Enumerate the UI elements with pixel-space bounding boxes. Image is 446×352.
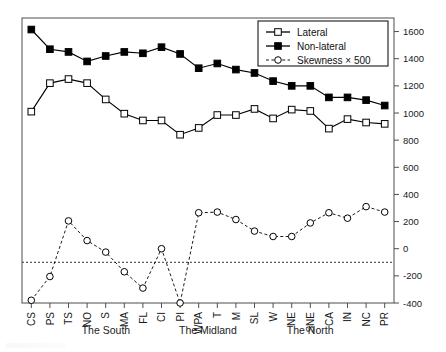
legend-marker (275, 29, 282, 36)
data-point (177, 300, 184, 307)
x-tick-label: FL (138, 312, 149, 324)
data-point (251, 70, 258, 77)
data-point (381, 121, 388, 128)
data-point (344, 94, 351, 101)
group-label-north: The North (287, 324, 334, 336)
data-point (140, 50, 147, 57)
legend-marker (275, 43, 282, 50)
y-tick-label: -200 (403, 270, 422, 281)
legend-label: Lateral (297, 27, 328, 38)
y-tick-label: 800 (403, 135, 419, 146)
data-point (270, 115, 277, 122)
data-point (121, 49, 128, 56)
data-point (158, 44, 165, 51)
data-point (288, 83, 295, 90)
data-point (381, 209, 388, 216)
data-point (47, 273, 54, 280)
data-point (270, 233, 277, 240)
data-point (307, 83, 314, 90)
y-tick-label: 1200 (403, 80, 424, 91)
data-point (326, 125, 333, 132)
data-point (28, 297, 35, 304)
data-point (121, 110, 128, 117)
data-point (363, 97, 370, 104)
y-tick-label: 0 (403, 243, 408, 254)
y-tick-label: 1600 (403, 26, 424, 37)
figure-caption-fragment (6, 343, 66, 348)
y-axis-right: -400-20002004006008001000120014001600 (394, 26, 424, 308)
data-point (102, 53, 109, 60)
data-point (288, 106, 295, 113)
group-label-midland: The Midland (179, 324, 237, 336)
chart-legend: LateralNon-lateralSkewness × 500 (258, 21, 388, 66)
data-point (344, 116, 351, 123)
data-point (28, 108, 35, 115)
y-tick-label: -400 (403, 298, 422, 309)
data-point (84, 58, 91, 65)
data-point (84, 237, 91, 244)
data-point (214, 209, 221, 216)
data-point (65, 218, 72, 225)
y-tick-label: 1400 (403, 53, 424, 64)
line-chart-canvas: -400-20002004006008001000120014001600CSP… (0, 0, 446, 352)
data-point (84, 80, 91, 87)
x-tick-label: SL (249, 312, 260, 325)
data-point (158, 245, 165, 252)
data-point (288, 233, 295, 240)
x-tick-label: W (268, 311, 279, 321)
data-point (307, 108, 314, 115)
data-point (326, 209, 333, 216)
x-tick-label: S (100, 312, 111, 319)
data-point (121, 268, 128, 275)
y-tick-label: 1000 (403, 108, 424, 119)
legend-label: Skewness × 500 (297, 55, 371, 66)
y-tick-label: 200 (403, 216, 419, 227)
x-tick-label: CI (156, 312, 167, 322)
data-point (233, 66, 240, 73)
data-point (47, 80, 54, 87)
data-point (214, 112, 221, 119)
data-point (177, 51, 184, 58)
data-point (326, 94, 333, 101)
data-point (65, 49, 72, 56)
data-point (344, 215, 351, 222)
chart-figure: -400-20002004006008001000120014001600CSP… (0, 0, 446, 352)
data-point (195, 125, 202, 132)
data-point (158, 117, 165, 124)
x-tick-label: T (212, 312, 223, 318)
data-point (102, 249, 109, 256)
data-point (233, 112, 240, 119)
group-caption-row: The South The Midland The North (0, 324, 446, 340)
data-point (28, 26, 35, 33)
legend-marker (275, 57, 282, 64)
data-point (307, 220, 314, 227)
data-point (381, 102, 388, 109)
legend-label: Non-lateral (297, 41, 346, 52)
x-tick-label: TS (63, 312, 74, 325)
x-tick-label: PI (175, 312, 186, 321)
x-tick-label: M (231, 312, 242, 320)
data-point (140, 285, 147, 292)
data-point (270, 78, 277, 85)
data-point (251, 228, 258, 235)
data-point (195, 209, 202, 216)
data-point (233, 216, 240, 223)
data-point (363, 119, 370, 126)
data-point (214, 60, 221, 67)
data-point (195, 65, 202, 72)
y-tick-label: 600 (403, 162, 419, 173)
data-point (65, 76, 72, 83)
data-point (177, 131, 184, 138)
y-tick-label: 400 (403, 189, 419, 200)
data-point (102, 96, 109, 103)
x-tick-label: IN (342, 312, 353, 322)
data-point (363, 203, 370, 210)
data-point (140, 117, 147, 124)
data-point (251, 106, 258, 113)
data-point (47, 46, 54, 53)
group-label-south: The South (82, 324, 130, 336)
